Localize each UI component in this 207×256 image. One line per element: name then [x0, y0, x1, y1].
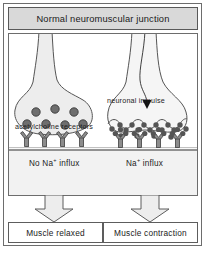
figure-title-bar: Normal neuromuscular junction	[8, 7, 198, 30]
block-arrow-down-icon-left	[32, 195, 76, 223]
neurotransmitter	[129, 122, 134, 127]
vesicle	[51, 105, 59, 113]
result-box-muscle-relaxed: Muscle relaxed	[8, 222, 103, 243]
neurotransmitter	[153, 122, 158, 127]
neurotransmitter	[109, 126, 114, 131]
bound-transmitter	[161, 131, 166, 136]
block-arrow-down-icon-right	[128, 195, 172, 223]
no-sodium-influx-prefix: No Na	[29, 159, 53, 168]
bound-transmitter	[142, 131, 147, 136]
bound-transmitter	[118, 127, 123, 132]
result-label-muscle-relaxed: Muscle relaxed	[26, 228, 85, 238]
no-sodium-influx-suffix: influx	[57, 159, 80, 168]
right-axon-terminal-shape	[108, 34, 187, 132]
neurotransmitter	[165, 122, 170, 127]
sodium-influx-label: Na+ influx	[126, 157, 163, 168]
bound-transmitter	[156, 127, 161, 132]
bound-transmitter	[123, 131, 128, 136]
neuronal-impulse-label: neuronal impulse	[107, 96, 165, 105]
neurotransmitter	[117, 122, 122, 127]
bound-transmitter	[170, 131, 175, 136]
bound-transmitter	[137, 127, 142, 132]
neurotransmitter	[177, 122, 182, 127]
neuromuscular-junction-figure: Normal neuromuscular junction	[0, 0, 207, 256]
bound-transmitter	[175, 127, 180, 132]
neurotransmitter	[183, 126, 188, 131]
result-box-muscle-contraction: Muscle contraction	[103, 222, 198, 243]
bound-transmitter	[180, 131, 185, 136]
no-sodium-influx-label: No Na+ influx	[29, 157, 79, 168]
sodium-influx-prefix: Na	[126, 159, 137, 168]
receptor-unbound	[21, 132, 33, 147]
synapse-illustration	[9, 34, 197, 195]
sodium-influx-suffix: influx	[140, 159, 163, 168]
neurotransmitter	[141, 122, 146, 127]
acetylcholine-receptors-label: acetylcholine receptors	[15, 122, 93, 131]
result-label-muscle-contraction: Muscle contraction	[114, 228, 187, 238]
bound-transmitter	[151, 131, 156, 136]
receptor-unbound	[76, 132, 88, 147]
vesicle	[32, 108, 40, 116]
bound-transmitter	[113, 131, 118, 136]
synapse-diagram-panel: neuronal impulse acetylcholine receptors…	[8, 33, 198, 196]
figure-title: Normal neuromuscular junction	[36, 14, 169, 24]
vesicle	[70, 108, 78, 116]
bound-transmitter	[132, 131, 137, 136]
